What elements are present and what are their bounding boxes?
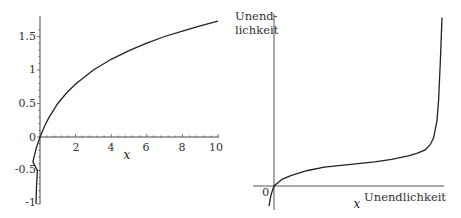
right-chart: Unend- lichkeit 0 x Unendlichkeit [235, 9, 446, 211]
y-tick-1: 1 [29, 63, 36, 76]
left-chart: 1.5 1 0.5 0 -0.5 -1 2 4 6 8 10 x [15, 16, 223, 209]
left-curve [33, 21, 218, 204]
x-tick-6: 6 [143, 141, 150, 154]
y-tick-1.5: 1.5 [19, 30, 37, 43]
y-tick-0.5: 0.5 [19, 97, 37, 110]
y-tick-neg0.5: -0.5 [15, 163, 36, 176]
y-tick-0: 0 [29, 131, 36, 144]
right-y-end-label-1: Unend- [235, 9, 278, 23]
right-origin-label: 0 [262, 185, 269, 199]
right-x-label: x [354, 197, 361, 211]
right-curve [269, 17, 442, 206]
x-tick-10: 10 [209, 141, 223, 154]
left-ticks [37, 30, 218, 204]
plots: 1.5 1 0.5 0 -0.5 -1 2 4 6 8 10 x Unend- … [0, 0, 461, 218]
x-tick-4: 4 [108, 141, 115, 154]
x-tick-8: 8 [179, 141, 186, 154]
y-tick-neg1: -1 [25, 196, 36, 209]
right-y-end-label-2: lichkeit [235, 23, 279, 37]
left-x-label: x [124, 148, 131, 162]
x-tick-2: 2 [73, 141, 80, 154]
right-x-end-label: Unendlichkeit [364, 190, 446, 204]
